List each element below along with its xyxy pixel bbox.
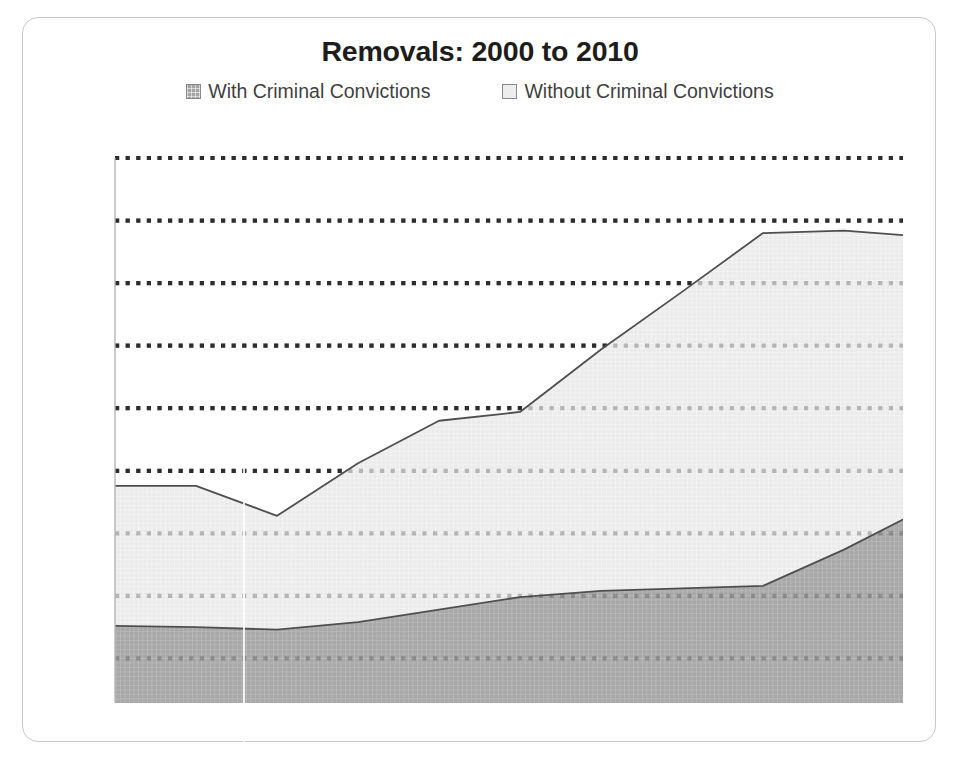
page-title: Removals: 2000 to 2010 [23,35,937,68]
legend-item-with-criminal-convictions[interactable]: With Criminal Convictions [186,80,430,103]
stacked-area-chart [93,136,903,703]
legend-swatch-filled-icon [186,84,201,99]
series-areas [115,231,903,703]
area-without-criminal-convictions [115,231,903,630]
plot-area [93,136,903,703]
chart-legend: With Criminal Convictions Without Crimin… [23,80,937,103]
legend-item-label: With Criminal Convictions [208,80,430,103]
chart-card: Removals: 2000 to 2010 With Criminal Con… [22,17,936,742]
legend-item-without-criminal-convictions[interactable]: Without Criminal Convictions [502,80,773,103]
legend-item-label: Without Criminal Convictions [524,80,773,103]
legend-swatch-hollow-icon [502,84,517,99]
